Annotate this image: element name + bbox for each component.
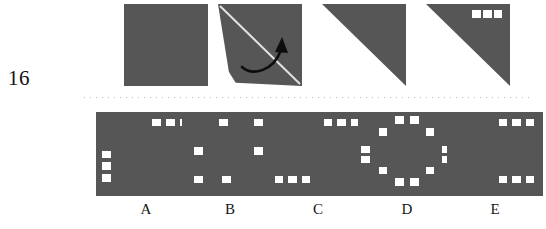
punched-hole <box>395 116 404 124</box>
question-number: 16 <box>8 68 30 89</box>
option-letter-c: C <box>298 202 338 217</box>
option-tile-a[interactable] <box>96 112 196 196</box>
option-letter-d: D <box>387 202 427 217</box>
option-tile-e[interactable] <box>447 112 543 196</box>
fold-arrow-head <box>275 37 288 53</box>
punched-hole <box>410 178 419 186</box>
punched-hole <box>302 176 311 184</box>
punched-hole <box>526 176 535 184</box>
punched-hole <box>499 176 508 184</box>
option-letter-a: A <box>126 202 166 217</box>
fold-step-folding-in-progress <box>218 4 302 86</box>
punched-hole <box>337 119 346 127</box>
option-tile-d[interactable] <box>358 112 456 196</box>
option-tile-b[interactable] <box>182 112 278 196</box>
punched-hole <box>512 119 521 127</box>
punched-hole <box>494 10 502 18</box>
punched-hole <box>102 151 111 159</box>
punched-hole <box>361 146 370 154</box>
punched-hole <box>288 176 297 184</box>
option-letter-e: E <box>475 202 515 217</box>
punched-hole <box>426 167 435 175</box>
option-letter-b: B <box>210 202 250 217</box>
fold-step-unfolded-square <box>124 4 208 86</box>
punched-hole <box>426 128 435 136</box>
punched-hole <box>194 147 203 155</box>
punched-hole <box>361 156 370 164</box>
punched-hole <box>379 167 388 175</box>
punched-hole <box>254 119 263 127</box>
fold-arrow-path <box>242 50 281 71</box>
punched-hole <box>472 10 480 18</box>
punched-hole <box>194 176 203 184</box>
punched-hole <box>275 176 284 184</box>
punched-hole <box>102 174 111 182</box>
punched-hole <box>499 119 508 127</box>
punched-hole <box>222 176 231 184</box>
punched-hole <box>166 119 175 127</box>
crease-line <box>220 6 300 84</box>
option-tile-c[interactable] <box>270 112 366 196</box>
paper-fill-solid <box>358 112 456 196</box>
question-page: 16 <box>0 0 546 229</box>
section-divider <box>84 97 534 98</box>
fold-step-folded-triangle <box>322 4 406 86</box>
punched-hole <box>395 178 404 186</box>
punched-hole <box>254 147 263 155</box>
fold-step-punched-triangle <box>426 4 510 86</box>
punched-hole <box>379 128 388 136</box>
crease-and-arrow-layer <box>218 4 302 86</box>
punched-hole <box>219 119 228 127</box>
paper-fill-solid <box>124 4 208 86</box>
punched-hole <box>410 116 419 124</box>
punched-hole <box>483 10 491 18</box>
punched-hole <box>102 162 111 170</box>
punched-hole <box>526 119 535 127</box>
punched-hole <box>324 119 333 127</box>
punched-hole <box>152 119 161 127</box>
paper-fill-triangle <box>322 4 406 86</box>
punched-hole <box>512 176 521 184</box>
